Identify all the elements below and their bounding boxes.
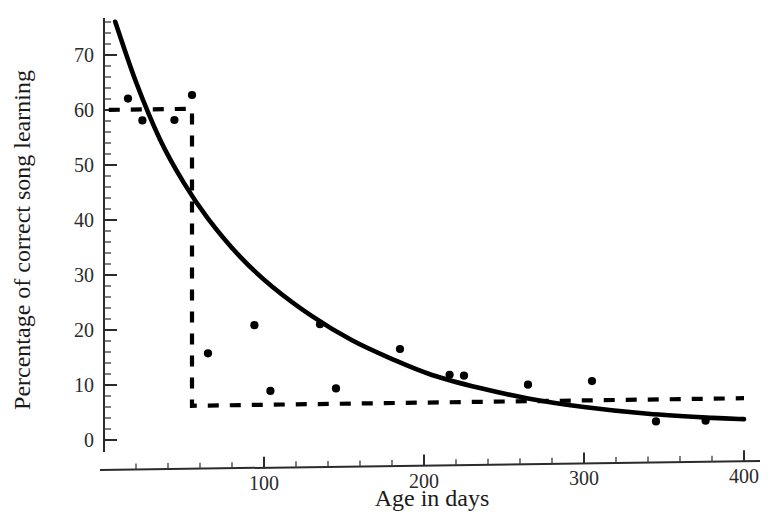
y-axis-title: Percentage of correct song learning xyxy=(9,70,35,410)
song-learning-scatter-chart: 010203040506070 100200300400 Age in days… xyxy=(0,0,781,526)
data-point xyxy=(460,372,468,380)
data-point xyxy=(138,116,146,124)
y-tick-label-20: 20 xyxy=(74,319,94,341)
y-tick-label-60: 60 xyxy=(74,99,94,121)
x-tick-label-100: 100 xyxy=(249,472,279,494)
data-point xyxy=(204,349,212,357)
data-point xyxy=(446,371,454,379)
data-point xyxy=(188,91,196,99)
data-point xyxy=(332,384,340,392)
x-axis-title: Age in days xyxy=(375,485,490,511)
data-point xyxy=(250,321,258,329)
y-tick-label-50: 50 xyxy=(74,154,94,176)
chart-background xyxy=(0,0,781,526)
y-tick-label-40: 40 xyxy=(74,209,94,231)
y-tick-label-30: 30 xyxy=(74,264,94,286)
y-tick-label-10: 10 xyxy=(74,374,94,396)
data-point xyxy=(396,345,404,353)
data-point xyxy=(316,320,324,328)
chart-figure: 010203040506070 100200300400 Age in days… xyxy=(0,0,781,526)
data-point xyxy=(524,381,532,389)
x-tick-label-300: 300 xyxy=(569,467,599,489)
data-point xyxy=(652,417,660,425)
data-point xyxy=(702,417,710,425)
y-tick-label-70: 70 xyxy=(74,44,94,66)
data-point xyxy=(266,387,274,395)
y-tick-label-0: 0 xyxy=(84,429,94,451)
data-point xyxy=(124,95,132,103)
data-point xyxy=(170,116,178,124)
x-tick-label-400: 400 xyxy=(729,465,759,487)
data-point xyxy=(588,377,596,385)
